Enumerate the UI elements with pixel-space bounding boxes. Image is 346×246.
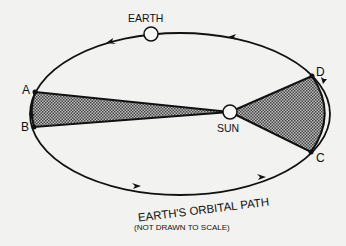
arrow-top-right-icon xyxy=(228,34,237,40)
point-c-label: C xyxy=(316,151,325,165)
earth-icon xyxy=(144,27,158,41)
point-b-label: B xyxy=(21,120,29,134)
point-d-label: D xyxy=(316,65,325,79)
sun-icon xyxy=(223,105,237,119)
arrow-bottom-right-icon xyxy=(257,174,266,180)
point-b-marker xyxy=(32,125,37,130)
shaded-sector-cd xyxy=(230,76,325,152)
point-c-marker xyxy=(309,150,314,155)
earth-label: EARTH xyxy=(128,12,163,24)
point-a-label: A xyxy=(22,83,30,97)
sun-label: SUN xyxy=(217,122,239,134)
point-a-marker xyxy=(33,90,38,95)
arrow-bottom-left-icon xyxy=(132,183,141,189)
orbit-label: EARTH'S ORBITAL PATH xyxy=(137,196,269,224)
scale-note: (NOT DRAWN TO SCALE) xyxy=(134,223,230,232)
shaded-sector-ab xyxy=(32,92,230,127)
point-d-marker xyxy=(310,74,315,79)
orbit-diagram: EARTH SUN A B C D EARTH'S ORBITAL PATH (… xyxy=(0,0,346,246)
